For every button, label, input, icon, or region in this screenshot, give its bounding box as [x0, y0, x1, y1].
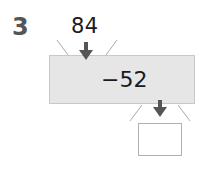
answer-box[interactable]: [138, 123, 182, 156]
arrow-down-icon: [153, 100, 167, 117]
arrow-down-icon: [79, 42, 93, 60]
